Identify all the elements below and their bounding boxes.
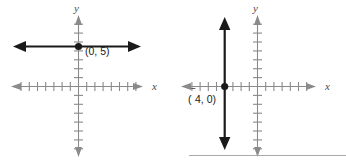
left-x-axis-label: x <box>151 80 157 92</box>
left-y-axis-up-arrow-icon <box>75 15 82 25</box>
left-graph-svg: (0, 5) y x <box>0 0 173 165</box>
right-x-axis-label: x <box>324 80 330 92</box>
left-point-label: (0, 5) <box>85 45 110 57</box>
right-y-axis-up-arrow-icon <box>254 15 261 25</box>
left-plot-left-arrow-icon <box>13 41 26 52</box>
figure-root: (0, 5) y x <box>0 0 346 165</box>
right-point-marker <box>221 83 228 90</box>
left-plot-right-arrow-icon <box>128 41 141 52</box>
right-y-axis-label: y <box>252 2 258 14</box>
left-point-marker <box>75 43 82 50</box>
left-y-axis-label: y <box>73 2 79 14</box>
left-graph-panel: (0, 5) y x <box>0 0 173 165</box>
bottom-divider-rule <box>189 155 346 156</box>
left-x-axis-left-arrow-icon <box>11 83 21 90</box>
right-plot-down-arrow-icon <box>219 137 230 150</box>
right-x-axis-right-arrow-icon <box>306 83 316 90</box>
right-point-label-body: 4, 0) <box>195 93 216 105</box>
right-x-axis-left-arrow-icon <box>181 83 191 90</box>
right-plot-up-arrow-icon <box>219 17 230 30</box>
left-x-axis-right-arrow-icon <box>133 83 143 90</box>
right-graph-panel: (‾4, 0) y x <box>173 0 346 165</box>
right-point-label: (‾4, 0) <box>188 87 216 105</box>
right-graph-svg: (‾4, 0) y x <box>173 0 346 165</box>
